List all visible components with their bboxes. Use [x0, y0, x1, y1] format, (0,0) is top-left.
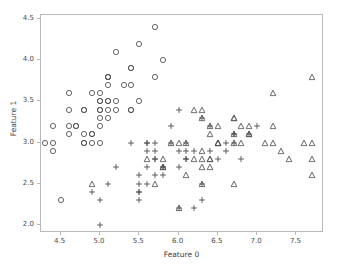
y-tick-mark — [37, 224, 40, 225]
x-tick-label: 5.0 — [93, 237, 104, 245]
data-point-circle — [96, 90, 103, 97]
data-point-circle — [104, 106, 111, 113]
data-point-circle — [159, 57, 166, 64]
data-point-triangle — [199, 114, 206, 121]
data-point-circle — [89, 90, 96, 97]
x-tick-label: 7.5 — [290, 237, 301, 245]
data-point-plus — [175, 164, 182, 171]
data-point-circle — [112, 98, 119, 105]
data-point-circle — [81, 139, 88, 146]
x-tick-mark — [295, 232, 296, 235]
data-point-circle — [65, 123, 72, 130]
data-point-triangle — [175, 139, 182, 146]
data-point-triangle — [214, 139, 221, 146]
y-tick-label: 2.5 — [14, 179, 34, 187]
data-point-circle — [112, 106, 119, 113]
data-point-triangle — [238, 139, 245, 146]
data-point-circle — [89, 139, 96, 146]
data-point-plus — [159, 172, 166, 179]
data-point-plus — [104, 180, 111, 187]
data-point-circle — [96, 123, 103, 130]
data-point-triangle — [159, 164, 166, 171]
data-point-triangle — [262, 139, 269, 146]
x-tick-mark — [60, 232, 61, 235]
data-point-circle — [49, 139, 56, 146]
data-point-plus — [151, 139, 158, 146]
data-point-circle — [104, 73, 111, 80]
plot-area — [40, 14, 323, 232]
data-point-circle — [96, 98, 103, 105]
data-point-triangle — [309, 73, 316, 80]
x-tick-mark — [256, 232, 257, 235]
data-point-triangle — [183, 139, 190, 146]
data-point-triangle — [159, 155, 166, 162]
data-point-plus — [136, 197, 143, 204]
data-point-circle — [49, 123, 56, 130]
data-point-plus — [167, 123, 174, 130]
data-point-plus — [96, 197, 103, 204]
data-point-circle — [81, 131, 88, 138]
scatter-plot-figure: 4.55.05.56.06.57.07.5 2.02.53.03.54.04.5… — [0, 0, 343, 267]
data-point-plus — [183, 147, 190, 154]
data-point-circle — [120, 81, 127, 88]
data-point-triangle — [230, 180, 237, 187]
data-point-triangle — [207, 131, 214, 138]
x-tick-mark — [138, 232, 139, 235]
data-point-circle — [104, 98, 111, 105]
data-point-triangle — [199, 147, 206, 154]
data-point-triangle — [89, 180, 96, 187]
x-tick-label: 5.5 — [133, 237, 144, 245]
data-point-circle — [65, 90, 72, 97]
data-point-circle — [65, 131, 72, 138]
data-point-plus — [222, 139, 229, 146]
data-point-triangle — [199, 106, 206, 113]
data-point-circle — [96, 114, 103, 121]
data-point-triangle — [230, 114, 237, 121]
data-point-circle — [136, 98, 143, 105]
data-point-triangle — [151, 180, 158, 187]
data-point-triangle — [277, 147, 284, 154]
x-tick-mark — [217, 232, 218, 235]
data-point-circle — [104, 81, 111, 88]
data-point-circle — [151, 24, 158, 31]
y-tick-label: 4.0 — [14, 55, 34, 63]
data-point-plus — [96, 221, 103, 228]
y-tick-mark — [37, 18, 40, 19]
data-point-plus — [112, 164, 119, 171]
data-point-triangle — [246, 123, 253, 130]
data-point-triangle — [199, 155, 206, 162]
data-point-plus — [151, 172, 158, 179]
data-point-plus — [183, 155, 190, 162]
data-point-circle — [57, 197, 64, 204]
x-tick-label: 6.5 — [211, 237, 222, 245]
y-tick-mark — [37, 142, 40, 143]
y-tick-mark — [37, 100, 40, 101]
x-tick-label: 7.0 — [251, 237, 262, 245]
data-point-triangle — [301, 139, 308, 146]
data-point-circle — [73, 123, 80, 130]
x-tick-mark — [178, 232, 179, 235]
data-point-plus — [144, 164, 151, 171]
data-point-plus — [254, 123, 261, 130]
y-axis-label: Feature 1 — [9, 84, 18, 154]
data-point-circle — [96, 139, 103, 146]
data-point-triangle — [199, 164, 206, 171]
data-point-circle — [151, 73, 158, 80]
data-point-triangle — [199, 180, 206, 187]
y-tick-mark — [37, 59, 40, 60]
data-point-triangle — [214, 123, 221, 130]
data-point-plus — [89, 188, 96, 195]
x-tick-mark — [99, 232, 100, 235]
data-point-triangle — [207, 164, 214, 171]
data-point-plus — [136, 172, 143, 179]
data-point-circle — [112, 49, 119, 56]
data-point-circle — [65, 106, 72, 113]
data-point-circle — [89, 131, 96, 138]
data-point-plus — [144, 139, 151, 146]
data-point-plus — [136, 188, 143, 195]
x-axis-label: Feature 0 — [40, 250, 323, 259]
data-point-circle — [81, 106, 88, 113]
data-point-triangle — [207, 155, 214, 162]
data-point-circle — [128, 81, 135, 88]
y-tick-label: 2.0 — [14, 220, 34, 228]
